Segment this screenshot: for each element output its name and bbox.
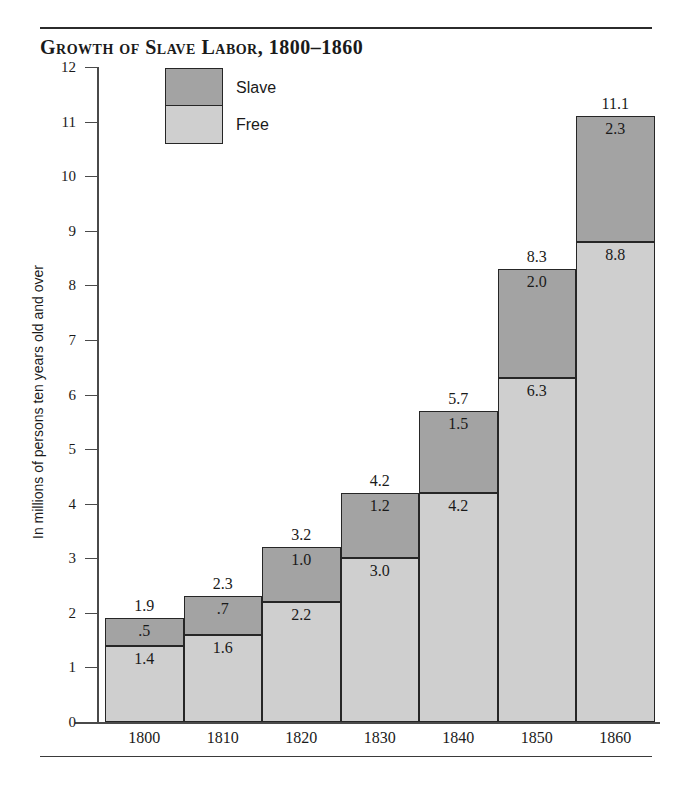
y-tick-7: 7 [46,340,99,341]
bar-total-label-1840: 5.7 [419,390,498,408]
plot-area: 0123456789101112 In millions of persons … [0,0,675,791]
y-tick-mark [85,449,97,450]
legend [165,68,223,144]
bar-segment-label-slave: 1.2 [342,497,419,515]
y-tick-label: 9 [46,223,76,240]
x-tick-label-1860: 1860 [576,729,655,747]
bar-segment-free[interactable]: 1.4 [105,646,184,722]
y-tick-mark [85,340,97,341]
y-tick-label: 11 [46,114,76,131]
bar-segment-free[interactable]: 8.8 [576,242,655,722]
bar-segment-label-free: 2.2 [263,606,340,624]
y-tick-label: 0 [46,714,76,731]
y-tick-5: 5 [46,449,99,450]
bar-segment-slave[interactable]: .7 [184,596,263,634]
bar-1840[interactable]: 1.54.2 [419,411,498,722]
y-tick-mark [85,722,97,723]
bar-segment-label-free: 4.2 [420,497,497,515]
bar-segment-label-slave: .5 [106,622,183,640]
bar-segment-label-slave: 2.3 [577,120,654,138]
bar-total-label-1820: 3.2 [262,526,341,544]
x-tick-label-1840: 1840 [419,729,498,747]
y-tick-mark [85,667,97,668]
bar-total-label-1830: 4.2 [341,472,420,490]
y-tick-label: 3 [46,550,76,567]
bar-total-label-1850: 8.3 [498,248,577,266]
y-tick-mark [85,231,97,232]
x-tick-label-1850: 1850 [498,729,577,747]
bar-segment-free[interactable]: 1.6 [184,635,263,722]
y-tick-11: 11 [46,122,99,123]
y-tick-mark [85,176,97,177]
y-tick-3: 3 [46,558,99,559]
y-tick-mark [85,122,97,123]
legend-swatch-slave [166,69,222,106]
bar-segment-label-free: 6.3 [499,382,576,400]
y-tick-mark [85,504,97,505]
bar-segment-slave[interactable]: 2.0 [498,269,577,378]
bar-1820[interactable]: 1.02.2 [262,547,341,722]
bar-segment-slave[interactable]: 1.0 [262,547,341,602]
y-tick-mark [85,67,97,68]
legend-swatch-free [166,106,222,143]
bar-total-label-1810: 2.3 [184,575,263,593]
bar-total-label-1800: 1.9 [105,597,184,615]
bar-total-label-1860: 11.1 [576,95,655,113]
legend-label-slave: Slave [236,79,276,97]
bar-segment-free[interactable]: 6.3 [498,378,577,722]
y-tick-label: 2 [46,605,76,622]
bar-segment-label-slave: 1.5 [420,415,497,433]
bar-segment-slave[interactable]: 2.3 [576,116,655,242]
bar-segment-free[interactable]: 2.2 [262,602,341,722]
x-tick-label-1830: 1830 [341,729,420,747]
bar-segment-label-slave: .7 [185,600,262,618]
x-tick-label-1820: 1820 [262,729,341,747]
legend-label-free: Free [236,116,269,134]
y-tick-6: 6 [46,395,99,396]
y-tick-mark [85,558,97,559]
bottom-divider-rule [40,756,652,757]
bar-segment-slave[interactable]: .5 [105,618,184,645]
y-tick-label: 8 [46,277,76,294]
x-tick-label-1800: 1800 [105,729,184,747]
y-tick-mark [85,285,97,286]
bar-1810[interactable]: .71.6 [184,596,263,722]
bar-1860[interactable]: 2.38.8 [576,116,655,722]
bar-1850[interactable]: 2.06.3 [498,269,577,722]
y-tick-2: 2 [46,613,99,614]
y-tick-0: 0 [46,722,99,723]
bar-segment-label-slave: 2.0 [499,273,576,291]
bar-segment-free[interactable]: 3.0 [341,558,420,722]
bar-segment-label-slave: 1.0 [263,551,340,569]
figure: Growth of Slave Labor, 1800–1860 0123456… [0,0,675,791]
bar-1800[interactable]: .51.4 [105,618,184,722]
y-tick-12: 12 [46,67,99,68]
bar-segment-label-free: 8.8 [577,246,654,264]
bar-segment-free[interactable]: 4.2 [419,493,498,722]
y-tick-label: 5 [46,441,76,458]
y-tick-8: 8 [46,285,99,286]
x-tick-label-1810: 1810 [184,729,263,747]
y-tick-label: 6 [46,387,76,404]
bar-1830[interactable]: 1.23.0 [341,493,420,722]
y-axis-title: In millions of persons ten years old and… [30,102,46,702]
y-tick-1: 1 [46,667,99,668]
bar-segment-label-free: 1.6 [185,639,262,657]
y-tick-10: 10 [46,176,99,177]
x-axis-line [75,722,660,724]
y-tick-label: 4 [46,496,76,513]
bar-segment-slave[interactable]: 1.5 [419,411,498,493]
bar-segment-label-free: 1.4 [106,650,183,668]
y-tick-9: 9 [46,231,99,232]
y-tick-label: 10 [46,168,76,185]
y-tick-label: 7 [46,332,76,349]
bar-segment-label-free: 3.0 [342,562,419,580]
y-tick-4: 4 [46,504,99,505]
y-tick-mark [85,395,97,396]
y-tick-label: 12 [46,59,76,76]
bar-segment-slave[interactable]: 1.2 [341,493,420,559]
y-tick-label: 1 [46,659,76,676]
y-tick-mark [85,613,97,614]
